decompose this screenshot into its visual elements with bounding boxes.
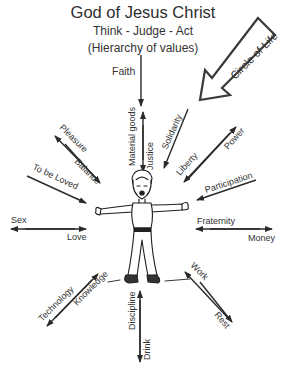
arrow-work-rest: Work Rest (185, 260, 232, 331)
label-discipline: Discipline (127, 291, 137, 330)
label-fraternity: Fraternity (197, 216, 236, 226)
label-to-be-loved: To be Loved (31, 162, 80, 192)
label-faith: Faith (112, 65, 136, 77)
center-person-figure (96, 170, 191, 283)
arrow-material-justice: Material goods Justice (127, 106, 155, 172)
circle-of-life-arrow: Circle of Life (200, 18, 280, 100)
label-sex: Sex (11, 215, 27, 225)
arrow-discipline-drink: Discipline Drink (127, 291, 152, 362)
label-drink: Drink (142, 338, 152, 360)
arrow-sex-love: Sex Love (11, 215, 87, 242)
values-diagram: Circle of Life Faith Material goods Just… (0, 0, 286, 382)
label-money: Money (248, 233, 276, 243)
arrow-participation: Participation (197, 170, 256, 200)
label-love: Love (67, 232, 87, 242)
label-pleasure: Pleasure (58, 122, 90, 154)
arrow-liberty-power: Liberty Power (174, 126, 247, 182)
arrow-fraternity-money: Fraternity Money (196, 216, 276, 243)
arrow-technology-knowledge: Technology Knowledge (36, 269, 110, 326)
label-liberty: Liberty (174, 150, 200, 177)
label-solidarity: Solidarity (160, 112, 184, 150)
label-justice: Justice (145, 142, 155, 170)
arrow-faith: Faith (112, 55, 141, 106)
label-knowledge: Knowledge (71, 269, 110, 308)
label-participation: Participation (204, 170, 254, 195)
label-rest: Rest (212, 310, 232, 331)
label-material-goods: Material goods (127, 106, 137, 166)
